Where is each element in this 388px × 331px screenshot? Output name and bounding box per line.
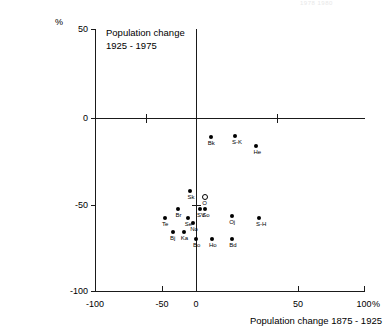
data-point-label: Bd [229,242,236,248]
data-point-label: Sk [187,194,194,200]
data-point-label: O [202,200,207,206]
x-tick--50 [162,286,163,291]
y-tick--50 [91,205,96,206]
y-axis-unit-label: % [55,18,63,27]
data-point [176,207,180,211]
y-tick-label--100: -100 [48,287,88,296]
data-point-label: Te [162,221,168,227]
data-point [210,237,214,241]
x-tick-0 [196,283,197,291]
x-axis-unit-label: % [372,300,380,309]
data-point-label: He [253,149,261,155]
y-tick-label-0: 0 [58,114,88,123]
data-point [230,214,234,218]
data-point [198,207,202,211]
x-tick-label-0: 0 [176,300,216,309]
x-tick-50 [298,286,299,291]
data-point-label: Br [175,212,181,218]
data-point-label: No [190,226,198,232]
x-tick-100 [364,286,365,291]
data-point [191,221,195,225]
data-point [194,237,198,241]
data-point [182,230,186,234]
y-tick-label--50: -50 [53,201,88,210]
data-point-label: S-K [232,139,242,145]
y-tick--100 [91,291,96,292]
data-point-label: Bj [170,235,175,241]
x-axis-caption: Population change 1875 - 1925 [250,315,382,326]
data-point-label: Oj [229,219,235,225]
x-tick-label--100: -100 [70,300,120,309]
data-point-label: Ho [209,242,217,248]
data-point-label: Bk [208,140,215,146]
x-axis-bottom-line [95,291,365,292]
zeroline-tick--50 [146,114,147,123]
data-point [257,216,261,220]
vertical-zero-line [196,29,197,291]
horizontal-zero-line [95,118,365,119]
data-point [254,144,258,148]
data-point-label: S-H [256,221,266,227]
data-point [188,189,192,193]
zeroline-tick-50 [277,114,278,123]
data-point [209,135,213,139]
y-axis-line [95,29,96,291]
data-point-label: Ka [181,235,188,241]
scatter-plot: 50 0 -50 -100 -100 -50 0 50 100 % % Popu… [0,0,388,331]
data-point [163,216,167,220]
data-point [186,216,190,220]
y-tick-50 [91,29,96,30]
data-point-label: Bo [193,242,200,248]
data-point [203,207,207,211]
x-tick-label-50: 50 [278,300,318,309]
y-tick-0 [91,118,96,119]
data-point [230,237,234,241]
zeroaxis-tick--50 [192,205,201,206]
data-point [171,230,175,234]
plot-title: Population change 1925 - 1975 [106,26,185,52]
data-point-label: So [202,212,209,218]
data-point [233,134,237,138]
